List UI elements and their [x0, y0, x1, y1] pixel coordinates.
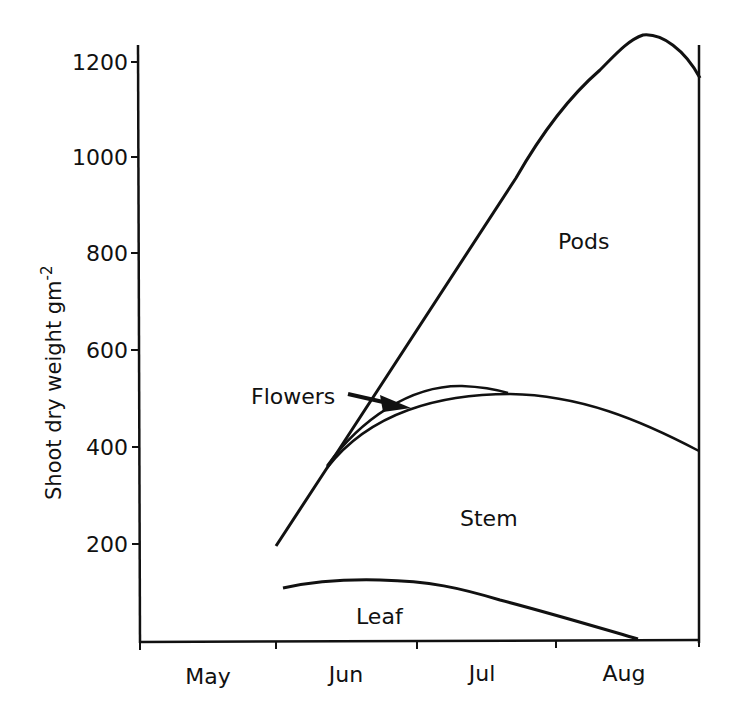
label-flowers: Flowers	[251, 384, 335, 409]
label-pods: Pods	[558, 229, 609, 254]
y-tick-200: 200	[86, 532, 128, 557]
x-axis	[139, 640, 700, 642]
x-label-jun: Jun	[327, 662, 363, 687]
y-tick-600: 600	[86, 338, 128, 363]
x-label-aug: Aug	[603, 661, 646, 686]
y-axis	[138, 45, 140, 643]
y-tick-800: 800	[86, 241, 128, 266]
label-stem: Stem	[460, 506, 518, 531]
y-tick-1000: 1000	[72, 145, 128, 170]
x-label-may: May	[185, 664, 230, 689]
pods-curve	[276, 35, 700, 546]
label-leaf: Leaf	[356, 604, 404, 629]
flowers-arrow-icon	[348, 394, 411, 412]
y-tick-labels: 1200 1000 800 600 400 200	[72, 50, 128, 557]
x-label-jul: Jul	[467, 661, 496, 686]
leaf-curve	[283, 580, 638, 639]
y-axis-label: Shoot dry weight gm-2	[38, 265, 66, 500]
x-tick-labels: May Jun Jul Aug	[185, 661, 645, 689]
y-tick-1200: 1200	[72, 50, 128, 75]
y-tick-400: 400	[86, 435, 128, 460]
chart-canvas: 1200 1000 800 600 400 200 Shoot dry weig…	[0, 0, 735, 726]
